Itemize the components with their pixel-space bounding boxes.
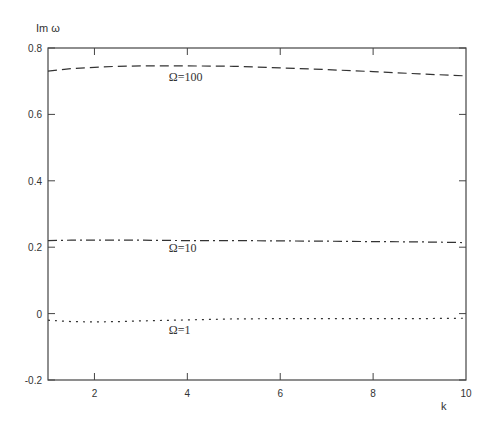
y-tick-label: 0.6 <box>28 109 42 120</box>
y-tick-label: 0.2 <box>28 242 42 253</box>
x-tick-label: 10 <box>460 388 472 399</box>
series-line <box>48 318 466 322</box>
x-axis-ticks: 246810 <box>92 48 472 399</box>
plot-frame <box>48 48 466 380</box>
x-tick-label: 6 <box>277 388 283 399</box>
series-lines <box>48 66 466 322</box>
y-axis-ticks: -0.200.20.40.60.8 <box>25 43 466 386</box>
series-label: Ω=1 <box>169 323 191 337</box>
y-tick-label: 0 <box>36 309 42 320</box>
series-labels: Ω=100Ω=10Ω=1 <box>169 70 203 336</box>
y-tick-label: 0.8 <box>28 43 42 54</box>
x-tick-label: 4 <box>185 388 191 399</box>
series-line <box>48 240 466 242</box>
series-line <box>48 66 466 76</box>
x-tick-label: 8 <box>370 388 376 399</box>
chart: -0.200.20.40.60.8 246810 Ω=100Ω=10Ω=1 Im… <box>0 0 489 429</box>
y-tick-label: -0.2 <box>25 375 43 386</box>
series-label: Ω=10 <box>169 241 197 255</box>
y-tick-label: 0.4 <box>28 176 42 187</box>
series-label: Ω=100 <box>169 70 203 84</box>
x-tick-label: 2 <box>92 388 98 399</box>
x-axis-label: k <box>441 400 447 412</box>
y-axis-label: Im ω <box>36 22 60 34</box>
